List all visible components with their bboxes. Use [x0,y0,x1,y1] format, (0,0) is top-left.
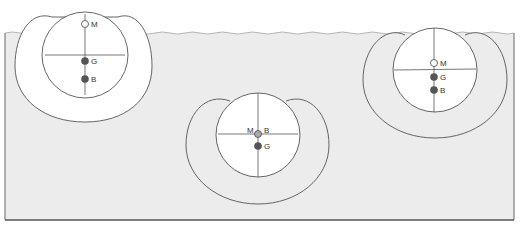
label-b: B [91,75,96,84]
label-g: G [440,73,446,82]
label-g: G [91,57,97,66]
figure-right: M G B [363,28,507,138]
metacentre-point [431,60,438,67]
gravity-point [430,73,438,81]
metacentre-buoyancy-point [255,131,262,138]
label-m: M [440,59,447,68]
gravity-point [81,57,89,65]
label-m: M [247,126,254,135]
label-b: B [440,86,445,95]
label-m: M [91,20,98,29]
buoyancy-point [81,75,89,83]
label-g: G [264,142,270,151]
figure-middle: M B G [186,93,329,204]
gravity-point [254,142,262,150]
buoyancy-point [430,86,438,94]
figure-left: M G B [15,12,152,122]
buoyancy-diagram: M G B M B G M G B [0,0,528,227]
label-b: B [264,126,269,135]
metacentre-point [82,21,89,28]
